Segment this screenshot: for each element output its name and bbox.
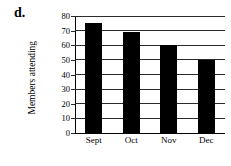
bar-nov xyxy=(160,45,177,133)
y-axis-tick-label: 60 xyxy=(62,41,71,50)
y-axis-tick-mark xyxy=(71,16,75,17)
x-axis-tick-label: Dec xyxy=(199,136,214,145)
y-axis-tick-mark xyxy=(71,89,75,90)
x-axis-tick-label: Nov xyxy=(161,136,177,145)
part-label: d. xyxy=(14,6,25,20)
y-axis-tick-label: 30 xyxy=(62,85,71,94)
y-axis-tick-mark xyxy=(71,118,75,119)
y-axis-tick-mark xyxy=(71,133,75,134)
y-axis-tick-mark xyxy=(71,75,75,76)
plot-area: 01020304050607080SeptOctNovDec xyxy=(75,16,225,133)
bar-chart-figure: d. Members attending 01020304050607080Se… xyxy=(0,0,231,166)
y-axis-tick-mark xyxy=(71,104,75,105)
y-axis-tick-mark xyxy=(71,31,75,32)
bar-dec xyxy=(198,60,215,133)
gridline xyxy=(75,16,225,17)
y-axis-tick-label: 0 xyxy=(66,129,70,138)
y-axis-tick-label: 80 xyxy=(62,12,71,21)
y-axis-tick-label: 20 xyxy=(62,100,71,109)
bar-oct xyxy=(123,32,140,133)
y-axis-tick-label: 10 xyxy=(62,114,71,123)
y-axis-tick-label: 70 xyxy=(62,26,71,35)
x-axis-tick-label: Sept xyxy=(86,136,102,145)
y-axis-tick-mark xyxy=(71,60,75,61)
y-axis-title: Members attending xyxy=(28,28,38,128)
x-axis-tick-label: Oct xyxy=(125,136,138,145)
y-axis-tick-label: 50 xyxy=(62,56,71,65)
y-axis-tick-label: 40 xyxy=(62,70,71,79)
bar-sept xyxy=(85,23,102,133)
y-axis-tick-mark xyxy=(71,45,75,46)
